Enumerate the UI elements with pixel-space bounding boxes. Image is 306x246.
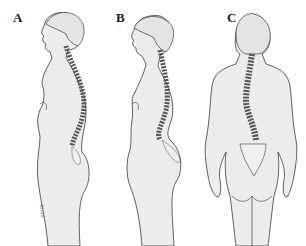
figure-panel-a: A Rinta [0, 0, 102, 246]
figure-panel-c: C [196, 0, 306, 246]
figure-panel-b: B [100, 0, 202, 246]
figure-a-illustration [0, 0, 102, 246]
figure-b-illustration [100, 0, 202, 246]
figure-c-illustration [196, 0, 306, 246]
